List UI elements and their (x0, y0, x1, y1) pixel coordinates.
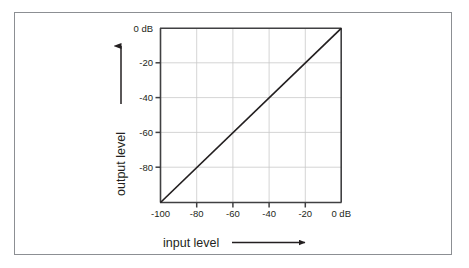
x-tick-label-n80: -80 (190, 208, 204, 219)
y-tick-label-n40: -40 (139, 92, 153, 103)
x-tick-label-n40: -40 (262, 208, 276, 219)
x-tick-label-n60: -60 (226, 208, 240, 219)
transfer-curve-chart: 0 dB -20 -40 -60 -80 -100 -80 -60 -40 -2… (0, 0, 469, 268)
figure-root: 0 dB -20 -40 -60 -80 -100 -80 -60 -40 -2… (0, 0, 469, 268)
y-axis-title: output level (114, 132, 128, 196)
y-tick-label-0: 0 dB (133, 23, 153, 34)
x-axis-title: input level (163, 236, 219, 250)
transfer-curve-line (161, 28, 342, 202)
x-tick-label-n20: -20 (298, 208, 312, 219)
y-tick-label-n80: -80 (139, 162, 153, 173)
x-tick-label-n100: -100 (151, 208, 170, 219)
y-tick-label-n20: -20 (139, 57, 153, 68)
y-tick-label-n60: -60 (139, 127, 153, 138)
x-tick-label-0: 0 dB (331, 208, 351, 219)
